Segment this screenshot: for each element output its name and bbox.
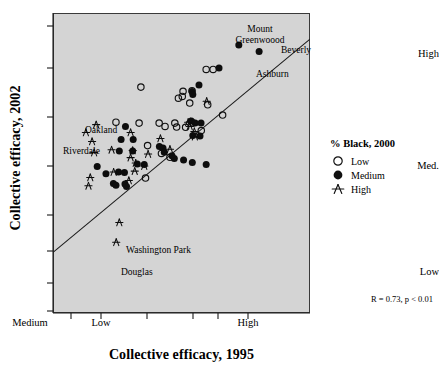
point-label-mount-greenwood: Mount Greenwoood xyxy=(225,24,295,45)
x-tick-label-high: High xyxy=(218,318,278,328)
correlation-annotation: R = 0.73, p < 0.01 xyxy=(371,294,433,304)
legend-label-high: High xyxy=(351,184,371,195)
point-label-washington-park: Washington Park xyxy=(126,245,191,256)
open-circle-icon xyxy=(331,154,347,168)
y-tick-label-high: High xyxy=(393,49,439,59)
x-tick-label-low: Low xyxy=(71,318,131,328)
legend-item-medium[interactable]: Medium xyxy=(331,168,436,182)
y-axis-title: Collective efficacy, 2002 xyxy=(8,58,24,258)
point-label-oakland: Oakland xyxy=(85,125,117,136)
x-axis-title: Collective efficacy, 1995 xyxy=(53,347,310,363)
x-tick-label-medium: Medium xyxy=(0,318,60,328)
legend-item-low[interactable]: Low xyxy=(331,154,436,168)
point-label-mount-line1: Mount xyxy=(225,24,295,35)
y-tick-label-low: Low xyxy=(393,267,439,277)
legend-label-medium: Medium xyxy=(351,170,385,181)
point-label-douglas: Douglas xyxy=(121,267,153,278)
legend-item-high[interactable]: High xyxy=(331,182,436,196)
point-label-riverdale: Riverdale xyxy=(63,146,100,157)
legend: % Black, 2000 Low Medium xyxy=(328,138,436,196)
star-icon xyxy=(331,182,347,196)
point-label-mount-line2: Greenwoood xyxy=(225,35,295,46)
legend-title: % Black, 2000 xyxy=(330,138,436,149)
legend-label-low: Low xyxy=(351,156,369,167)
filled-circle-icon xyxy=(331,168,347,182)
scatter-plot-figure: Collective efficacy, 2002 Collective eff… xyxy=(0,0,439,377)
point-label-ashburn: Ashburn xyxy=(256,69,289,80)
point-label-beverly: Beverly xyxy=(281,45,311,56)
